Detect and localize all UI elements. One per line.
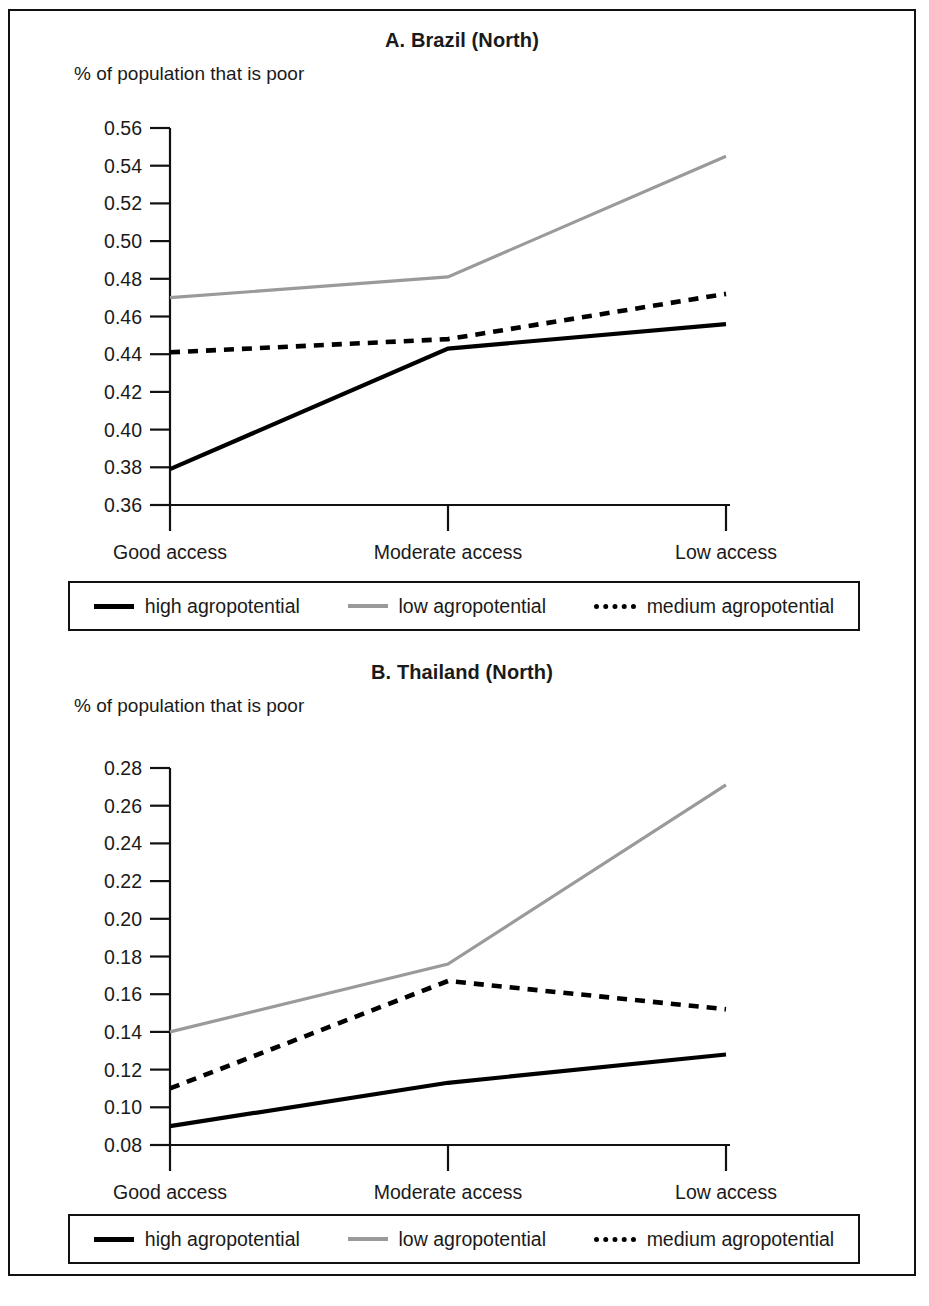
panel-b-legend: high agropotential low agropotential med… (68, 1214, 860, 1264)
series-line-gray (170, 785, 726, 1032)
y-tick-label: 0.50 (104, 230, 142, 252)
legend-item-medium: medium agropotential (594, 1228, 835, 1251)
y-tick-label: 0.20 (104, 908, 142, 930)
legend-item-medium: medium agropotential (594, 595, 835, 618)
panel-b-plot-area: 0.080.100.120.140.160.180.200.220.240.26… (10, 643, 914, 1276)
legend-label-low: low agropotential (399, 1228, 546, 1251)
series-line-dashed (170, 294, 726, 352)
y-tick-label: 0.54 (104, 155, 142, 177)
legend-label-medium: medium agropotential (647, 595, 835, 618)
y-tick-label: 0.26 (104, 795, 142, 817)
legend-label-high: high agropotential (145, 595, 300, 618)
y-tick-label: 0.40 (104, 419, 142, 441)
series-line-solid (170, 324, 726, 469)
y-tick-label: 0.24 (104, 832, 142, 854)
legend-swatch-gray-icon (348, 604, 388, 608)
panel-a-legend: high agropotential low agropotential med… (68, 581, 860, 631)
x-tick-label: Moderate access (374, 1181, 523, 1203)
panel-b-plot-svg: 0.080.100.120.140.160.180.200.220.240.26… (10, 643, 918, 1203)
series-line-dashed (170, 981, 726, 1088)
y-tick-label: 0.12 (104, 1059, 142, 1081)
y-tick-label: 0.36 (104, 494, 142, 516)
y-tick-label: 0.22 (104, 870, 142, 892)
legend-swatch-solid-icon (94, 1237, 134, 1242)
legend-item-low: low agropotential (348, 1228, 546, 1251)
legend-swatch-dashed-icon (594, 604, 636, 609)
y-tick-label: 0.56 (104, 117, 142, 139)
series-line-gray (170, 156, 726, 297)
y-tick-label: 0.48 (104, 268, 142, 290)
y-tick-label: 0.18 (104, 946, 142, 968)
x-tick-label: Moderate access (374, 541, 523, 563)
y-tick-label: 0.14 (104, 1021, 142, 1043)
y-tick-label: 0.52 (104, 192, 142, 214)
y-tick-label: 0.46 (104, 306, 142, 328)
y-tick-label: 0.44 (104, 343, 142, 365)
legend-item-low: low agropotential (348, 595, 546, 618)
figure-frame: A. Brazil (North) % of population that i… (8, 9, 916, 1276)
y-tick-label: 0.38 (104, 456, 142, 478)
panel-a-plot-area: 0.360.380.400.420.440.460.480.500.520.54… (10, 11, 914, 643)
y-tick-label: 0.16 (104, 983, 142, 1005)
legend-label-medium: medium agropotential (647, 1228, 835, 1251)
x-tick-label: Low access (675, 541, 777, 563)
legend-label-high: high agropotential (145, 1228, 300, 1251)
x-tick-label: Low access (675, 1181, 777, 1203)
legend-item-high: high agropotential (94, 1228, 300, 1251)
x-tick-label: Good access (113, 1181, 227, 1203)
x-tick-label: Good access (113, 541, 227, 563)
legend-swatch-dashed-icon (594, 1237, 636, 1242)
legend-label-low: low agropotential (399, 595, 546, 618)
y-tick-label: 0.08 (104, 1134, 142, 1156)
series-line-solid (170, 1055, 726, 1127)
legend-swatch-solid-icon (94, 604, 134, 609)
chart-panel-b: B. Thailand (North) % of population that… (10, 643, 914, 1276)
y-tick-label: 0.10 (104, 1096, 142, 1118)
chart-panel-a: A. Brazil (North) % of population that i… (10, 11, 914, 643)
y-tick-label: 0.28 (104, 757, 142, 779)
y-tick-label: 0.42 (104, 381, 142, 403)
legend-swatch-gray-icon (348, 1237, 388, 1241)
legend-item-high: high agropotential (94, 595, 300, 618)
panel-a-plot-svg: 0.360.380.400.420.440.460.480.500.520.54… (10, 11, 918, 571)
